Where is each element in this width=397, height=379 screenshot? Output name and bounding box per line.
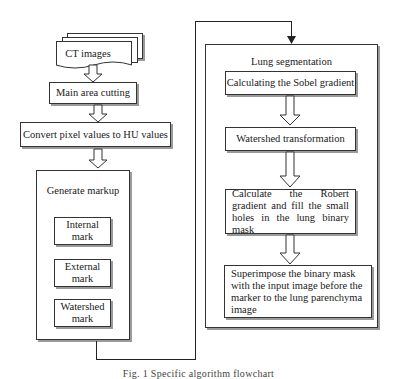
figure-caption: Fig. 1 Specific algorithm flowchart: [0, 368, 397, 379]
main-area-cutting-label: Main area cutting: [56, 87, 130, 99]
internal-mark-box: Internal mark: [54, 217, 111, 245]
watershed-transformation-box: Watershed transformation: [225, 127, 356, 151]
convert-hu-box: Convert pixel values to HU values: [20, 122, 171, 147]
hollow-arrow-down-icon: [279, 235, 301, 265]
internal-mark-label: Internal mark: [55, 219, 110, 243]
external-mark-box: External mark: [54, 259, 111, 287]
sobel-gradient-label: Calculating the Sobel gradient: [227, 77, 354, 89]
hollow-arrow-down-icon: [279, 96, 301, 126]
ct-images-label: CT images: [65, 48, 111, 60]
connector-bottom: [96, 359, 196, 360]
main-area-cutting-box: Main area cutting: [49, 82, 137, 104]
hollow-arrow-down-icon: [88, 149, 108, 169]
hollow-arrow-down-icon: [83, 65, 103, 83]
ct-images-box: CT images: [56, 41, 132, 65]
robert-gradient-label: Calculate the Robert gradient and fill t…: [232, 188, 349, 236]
hollow-arrow-down-icon: [88, 105, 108, 123]
superimpose-box: Superimpose the binary mask with the inp…: [224, 265, 372, 318]
connector-up: [195, 21, 196, 360]
hollow-arrow-down-icon: [279, 152, 301, 188]
lung-segmentation-title: Lung segmentation: [206, 56, 377, 67]
watershed-mark-box: Watershed mark: [54, 299, 111, 327]
connector-top: [195, 21, 292, 22]
connector-down: [96, 341, 97, 360]
convert-hu-label: Convert pixel values to HU values: [23, 129, 168, 141]
superimpose-label: Superimpose the binary mask with the inp…: [231, 268, 365, 316]
sobel-gradient-box: Calculating the Sobel gradient: [225, 71, 356, 95]
connector-drop: [291, 21, 292, 37]
watershed-transformation-label: Watershed transformation: [236, 133, 345, 145]
generate-markup-title: Generate markup: [37, 185, 129, 196]
watershed-mark-label: Watershed mark: [55, 301, 110, 325]
robert-gradient-box: Calculate the Robert gradient and fill t…: [225, 189, 356, 234]
external-mark-label: External mark: [55, 261, 110, 285]
